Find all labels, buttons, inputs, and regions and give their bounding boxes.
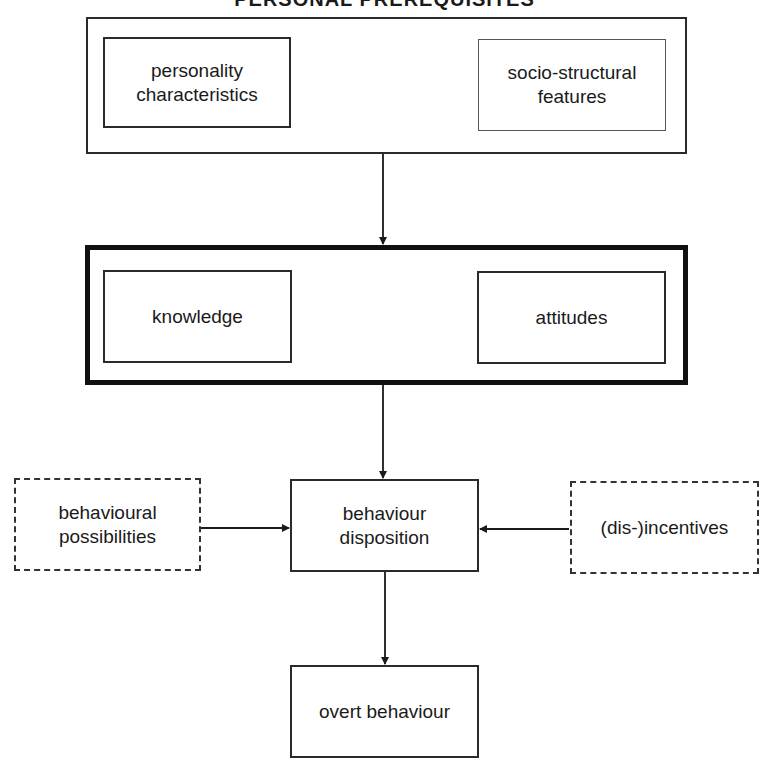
connector-arrows xyxy=(0,0,769,773)
